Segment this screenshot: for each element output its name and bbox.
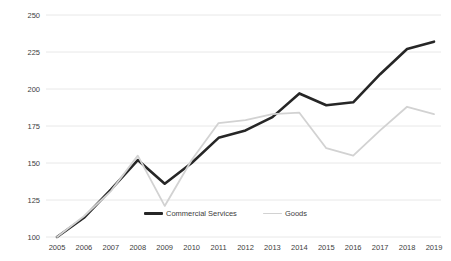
x-axis-tick-label: 2012 (237, 243, 254, 252)
line-chart: 1001251501752002252502005200620072008200… (0, 0, 451, 261)
x-axis-tick-label: 2017 (372, 243, 389, 252)
x-axis-tick-label: 2010 (183, 243, 200, 252)
series-line-commercial-services (57, 42, 434, 237)
x-axis-tick-label: 2009 (156, 243, 173, 252)
x-axis-tick-label: 2006 (76, 243, 93, 252)
x-axis-tick-label: 2008 (129, 243, 146, 252)
x-axis-tick-label: 2007 (103, 243, 120, 252)
y-axis-tick-label: 225 (27, 48, 40, 57)
x-axis-tick-label: 2014 (291, 243, 308, 252)
x-axis-tick-label: 2011 (211, 243, 227, 252)
plot-area: 1001251501752002252502005200620072008200… (0, 0, 451, 261)
y-axis-tick-label: 175 (27, 122, 40, 131)
y-axis-tick-label: 200 (27, 85, 40, 94)
y-axis-tick-label: 125 (27, 196, 40, 205)
x-axis-tick-label: 2005 (49, 243, 66, 252)
x-axis-tick-label: 2015 (318, 243, 335, 252)
x-axis-tick-label: 2016 (345, 243, 362, 252)
x-axis-tick-label: 2019 (426, 243, 443, 252)
y-axis-tick-label: 250 (27, 11, 40, 20)
x-axis-tick-label: 2013 (264, 243, 281, 252)
y-axis-tick-label: 100 (27, 233, 40, 242)
y-axis-tick-label: 150 (27, 159, 40, 168)
x-axis-tick-label: 2018 (399, 243, 416, 252)
